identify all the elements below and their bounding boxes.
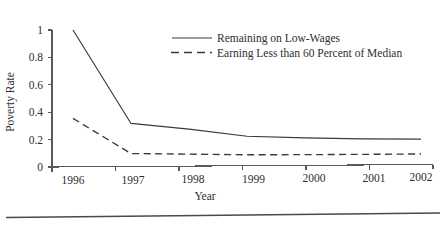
x-tick-label-1996: 1996: [62, 174, 85, 186]
x-tick-label-2002: 2002: [410, 171, 433, 183]
legend: Remaining on Low-Wages Earning Less than…: [171, 32, 402, 60]
legend-label-earning-less-than-60-percent-of-median: Earning Less than 60 Percent of Median: [217, 47, 402, 60]
x-tick-label-1999: 1999: [242, 173, 265, 185]
page-rule: [6, 213, 440, 218]
x-tick-label-2001: 2001: [363, 172, 386, 184]
y-tick-label-0.2: 0.2: [29, 134, 44, 146]
y-tick-label-1: 1: [37, 24, 43, 36]
x-tick-label-2000: 2000: [303, 172, 326, 184]
y-axis-title: Poverty Rate: [4, 72, 17, 132]
chart-figure: 0 0.2 0.4 0.6 0.8 1 1996 1997 1998 1999 …: [0, 0, 445, 226]
legend-label-remaining-on-low-wages: Remaining on Low-Wages: [217, 32, 341, 45]
x-axis-title: Year: [194, 190, 215, 202]
y-tick-label-0.4: 0.4: [29, 106, 44, 118]
x-tick-label-1997: 1997: [122, 174, 145, 186]
line-chart: 0 0.2 0.4 0.6 0.8 1 1996 1997 1998 1999 …: [0, 0, 445, 226]
y-tick-label-0.8: 0.8: [29, 51, 44, 63]
y-axis-ticks: [48, 30, 53, 167]
x-tick-label-1998: 1998: [182, 173, 205, 185]
y-tick-label-0: 0: [37, 161, 43, 173]
y-tick-label-0.6: 0.6: [29, 79, 44, 91]
